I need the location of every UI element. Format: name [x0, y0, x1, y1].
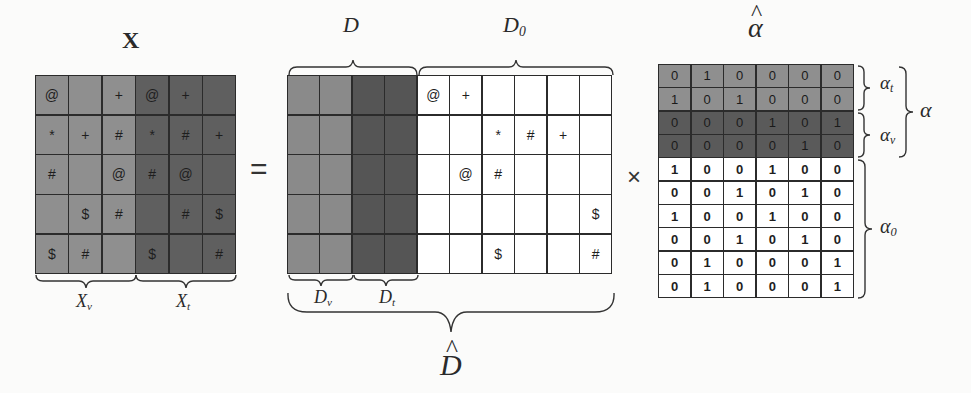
d-v-cell — [288, 116, 319, 154]
d0-cell — [515, 155, 546, 193]
alpha-v-cell: 0 — [757, 135, 788, 157]
alpha-0-cell: 1 — [724, 182, 755, 204]
alpha-0-cell: 0 — [724, 205, 755, 227]
equals-sign: = — [250, 154, 268, 184]
alpha-0-cell: 0 — [659, 228, 690, 250]
d0-cell: @ — [418, 76, 449, 114]
alpha-0-brace — [857, 159, 873, 299]
alpha-v-cell: 1 — [789, 135, 820, 157]
x-v-cell: + — [69, 116, 101, 154]
d0-cell: * — [483, 116, 514, 154]
d0-cell — [483, 195, 514, 233]
alpha-0-cell: 0 — [692, 228, 723, 250]
x-v-cell: @ — [103, 155, 135, 193]
alpha-v-cell: 0 — [692, 112, 723, 134]
d0-cell — [580, 76, 611, 114]
x-v-cell: @ — [36, 76, 68, 114]
d0-cell — [548, 155, 579, 193]
alpha-t-cell: 0 — [757, 65, 788, 87]
alpha-t-cell: 1 — [659, 88, 690, 110]
alpha-brace — [898, 66, 914, 158]
x-t-cell: $ — [136, 235, 168, 273]
alpha-0-cell: 0 — [692, 205, 723, 227]
x-v-cell: $ — [36, 235, 68, 273]
alpha-t-cell: 0 — [789, 65, 820, 87]
x-v-cell — [69, 76, 101, 114]
d-t-cell — [353, 155, 384, 193]
x-t-cell — [203, 76, 235, 114]
x-t-cell: # — [170, 195, 202, 233]
d-v-cell — [320, 195, 351, 233]
d0-cell — [580, 116, 611, 154]
alpha-v-cell: 0 — [692, 135, 723, 157]
x-v-cell: + — [103, 76, 135, 114]
x-v-label: Xv — [76, 292, 92, 312]
x-v-cell — [103, 235, 135, 273]
d0-cell: @ — [450, 155, 481, 193]
alpha-0-cell: 0 — [659, 252, 690, 274]
x-v-cell: # — [103, 195, 135, 233]
d0-brace — [418, 58, 614, 76]
alpha-0-cell: 1 — [659, 205, 690, 227]
x-t-cell: @ — [136, 76, 168, 114]
x-t-cell: # — [170, 116, 202, 154]
x-t-cell: + — [203, 116, 235, 154]
d-v-cell — [288, 195, 319, 233]
alpha-v-cell: 0 — [724, 112, 755, 134]
alpha-t-cell: 0 — [724, 65, 755, 87]
d0-cell: # — [483, 155, 514, 193]
d0-cell — [580, 155, 611, 193]
x-v-cell — [69, 155, 101, 193]
alpha-0-cell: 1 — [692, 252, 723, 274]
d-t-brace — [353, 274, 419, 288]
alpha-t-cell: 0 — [757, 88, 788, 110]
d0-cell — [418, 116, 449, 154]
alpha-0-cell: 0 — [659, 182, 690, 204]
x-t-brace — [135, 274, 237, 290]
x-matrix-title: X — [122, 28, 139, 52]
alpha-t-cell: 0 — [822, 88, 853, 110]
alpha-t-cell: 1 — [692, 65, 723, 87]
d-t-cell — [385, 155, 416, 193]
alpha-0-cell: 0 — [757, 182, 788, 204]
times-sign: × — [627, 165, 641, 189]
x-t-cell: * — [136, 116, 168, 154]
alpha-v-cell: 0 — [659, 112, 690, 134]
alpha-v-cell: 0 — [659, 135, 690, 157]
x-t-cell — [136, 195, 168, 233]
x-matrix: @+@+*+#*#+#@#@$##$$#$# — [35, 75, 236, 274]
x-v-cell: # — [69, 235, 101, 273]
d-t-cell — [353, 235, 384, 273]
alpha-hat-matrix: 0100001010000001010000101001000010101001… — [658, 64, 854, 298]
d0-cell: + — [548, 116, 579, 154]
d-brace — [288, 58, 418, 76]
x-t-label: Xt — [176, 292, 190, 312]
d0-cell — [515, 76, 546, 114]
alpha-v-cell: 0 — [724, 135, 755, 157]
alpha-0-cell: 0 — [692, 158, 723, 180]
d-t-cell — [353, 76, 384, 114]
d0-cell — [418, 195, 449, 233]
x-v-cell: * — [36, 116, 68, 154]
d-hat-matrix: @+*#+@#$$# — [287, 75, 612, 274]
alpha-0-cell: 1 — [822, 252, 853, 274]
d0-cell — [548, 195, 579, 233]
alpha-0-cell: 1 — [789, 182, 820, 204]
alpha-0-cell: 1 — [757, 158, 788, 180]
x-v-cell: $ — [69, 195, 101, 233]
alpha-0-cell: 1 — [757, 205, 788, 227]
x-t-cell — [203, 155, 235, 193]
d-v-brace — [288, 274, 354, 288]
alpha-v-brace — [857, 112, 871, 158]
alpha-0-cell: 1 — [692, 275, 723, 297]
alpha-0-label: α0 — [880, 216, 897, 239]
alpha-0-cell: 1 — [724, 228, 755, 250]
d0-cell: $ — [580, 195, 611, 233]
d0-cell — [483, 76, 514, 114]
d-v-cell — [288, 76, 319, 114]
alpha-0-cell: 0 — [822, 158, 853, 180]
d-label: D — [343, 14, 359, 36]
alpha-0-cell: 0 — [822, 205, 853, 227]
d-hat-label: D — [440, 350, 462, 380]
alpha-t-cell: 0 — [822, 65, 853, 87]
